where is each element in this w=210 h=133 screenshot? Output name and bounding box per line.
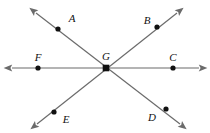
geometry-diagram: A B C D E F G — [0, 0, 210, 133]
point-e-label: E — [62, 113, 70, 125]
point-d-label: D — [147, 111, 156, 123]
point-f-dot — [35, 65, 40, 70]
point-f-label: F — [34, 51, 42, 63]
point-a-label: A — [68, 12, 76, 24]
point-g-dot — [103, 65, 110, 72]
point-c-dot — [170, 65, 175, 70]
point-d-dot — [163, 106, 168, 111]
point-b-dot — [154, 24, 159, 29]
point-c-label: C — [169, 51, 177, 63]
geometry-canvas: A B C D E F G — [0, 0, 210, 133]
point-a-dot — [55, 26, 60, 31]
point-g-label: G — [102, 50, 110, 62]
point-e-dot — [51, 109, 56, 114]
point-b-label: B — [144, 14, 151, 26]
points-group — [35, 24, 175, 114]
